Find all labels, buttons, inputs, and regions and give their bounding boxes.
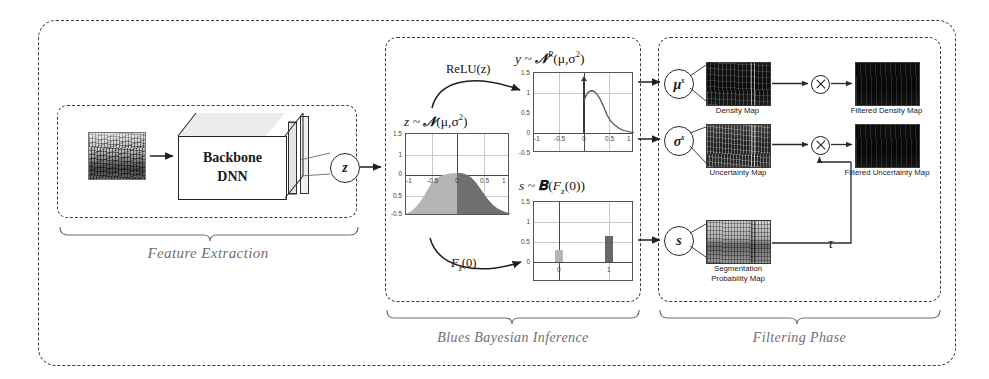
segmentation-map-label: Segmentation Probability Map [694,264,782,283]
multiply-operator-uncertainty [811,136,830,155]
ytick-y-0_5: 0.5 [514,109,530,116]
cdf-transform-label: Fz(0) [451,256,476,273]
ytick-z-neg0_5: -0.5 [384,210,402,217]
uncertainty-map [706,124,771,168]
ytick-s-0: 0 [514,258,530,265]
density-map [706,62,771,106]
ytick-y-1_5: 1.5 [514,69,530,76]
diagram-canvas: Backbone DNN z Feature Extraction z ~ 𝒩(… [0,0,989,379]
feature-extraction-caption: Feature Extraction [83,245,333,262]
ytick-s-1: 1 [514,218,530,225]
feature-slab-back [300,116,309,194]
backbone-dnn-box: Backbone DNN [178,136,287,200]
ytick-y-neg0_5: -0.5 [512,149,530,156]
plot-z-distribution: -1 -0.5 0 0.5 1 [405,133,509,215]
plot-y-rectified-normal: -1 -0.5 0 0.5 1 [533,72,633,152]
ytick-s-1_5: 1.5 [514,198,530,205]
sigma-node: σs [664,126,694,156]
ytick-y-0: 0 [514,129,530,136]
mu-node: μs [664,69,694,99]
feature-slab-front [288,122,297,194]
threshold-tau-label: τ [828,235,833,252]
filtering-phase-caption: Filtering Phase [658,330,941,346]
density-map-label: Density Map [686,106,789,116]
ytick-y-1: 1 [514,89,530,96]
bernoulli-bar-1 [605,236,613,262]
uncertainty-map-label: Uncertainty Map [683,168,793,178]
bayesian-inference-caption: Blues Bayesian Inference [385,330,641,346]
plot-s-bernoulli: 0 1 [533,201,633,281]
latent-z-label: z [342,160,347,176]
bernoulli-bar-0 [555,250,563,262]
s-node-label: s [676,233,681,249]
plot-title-z: z ~ 𝒩(μ,σ2) [404,112,467,130]
ytick-s-0_5: 0.5 [514,238,530,245]
ytick-z-0_5: 0.5 [386,192,402,199]
plot-title-s: s ~ 𝐁(Fz(0)) [519,178,585,196]
filtered-uncertainty-map [855,124,920,168]
plot-title-y: y ~ 𝒩R(μ,σ2) [515,49,584,67]
segmentation-probability-map [706,220,771,264]
filtered-uncertainty-map-label: Filtered Uncertainty Map [828,168,946,178]
input-crowd-image [88,132,146,180]
sigma-node-label: σs [674,133,685,150]
ytick-z-1: 1 [386,151,402,158]
mu-node-label: μs [674,76,685,93]
s-node: s [664,226,694,256]
ytick-z-1_5: 1.5 [386,130,402,137]
latent-z-node: z [330,153,360,183]
relu-transform-label: ReLU(z) [446,62,490,77]
backbone-label-line1: Backbone [203,149,262,168]
filtered-density-map-label: Filtered Density Map [833,106,940,116]
ytick-z-0: 0 [386,170,402,177]
backbone-label-line2: DNN [217,168,247,187]
filtered-density-map [855,62,920,106]
multiply-operator-density [811,75,830,94]
